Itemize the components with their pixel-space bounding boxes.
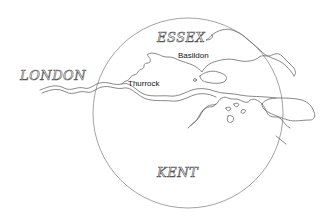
map: LONDON ESSEX KENT Basildon Thurrock <box>0 0 334 222</box>
town-label-thurrock: Thurrock <box>128 79 161 88</box>
region-label-essex: ESSEX <box>156 30 206 45</box>
region-label-london: LONDON <box>19 68 86 83</box>
town-label-basildon: Basildon <box>178 51 209 60</box>
essex-coastline <box>122 29 296 84</box>
region-label-kent: KENT <box>156 165 199 180</box>
kent-coastline <box>188 97 315 144</box>
town-marker <box>194 79 197 82</box>
canvey-island <box>194 71 227 83</box>
